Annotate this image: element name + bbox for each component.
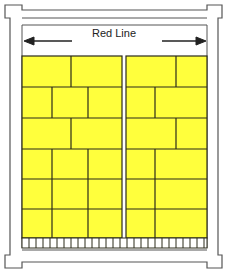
base-strip	[22, 238, 207, 248]
diagram-canvas	[0, 0, 228, 275]
red-line-label: Red Line	[0, 27, 228, 39]
left-panel	[22, 56, 122, 238]
right-panel	[126, 56, 207, 238]
